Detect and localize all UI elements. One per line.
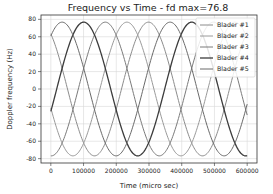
y-tick-label: 60 [28, 33, 36, 40]
y-tick-label: 20 [28, 68, 36, 75]
y-tick-label: -40 [26, 120, 36, 127]
x-tick-label: 300000 [138, 167, 161, 174]
x-axis-label: Time (micro sec) [119, 182, 179, 190]
y-axis-label: Doppler frequency (Hz) [6, 48, 14, 130]
legend-label: Blader #2 [217, 32, 249, 39]
y-tick-label: -80 [26, 155, 36, 162]
x-tick-label: 600000 [236, 167, 259, 174]
legend-label: Blader #3 [217, 43, 249, 50]
legend-label: Blader #4 [217, 54, 249, 61]
x-tick-label: 500000 [203, 167, 226, 174]
y-tick-label: -60 [26, 137, 36, 144]
chart-title: Frequency vs Time - fd max=76.8 [68, 2, 229, 13]
chart: Frequency vs Time - fd max=76.8 Time (mi… [0, 0, 273, 194]
x-tick-label: 100000 [72, 167, 95, 174]
x-tick-label: 0 [49, 167, 53, 174]
legend: Blader #1Blader #2Blader #3Blader #4Blad… [196, 18, 255, 77]
y-tick-label: 40 [28, 50, 36, 57]
x-tick-label: 200000 [105, 167, 128, 174]
y-tick-label: 80 [28, 15, 36, 22]
legend-label: Blader #5 [217, 65, 249, 72]
y-tick-label: 0 [32, 85, 36, 92]
x-tick-label: 400000 [170, 167, 193, 174]
legend-label: Blader #1 [217, 21, 249, 28]
y-tick-label: -20 [26, 102, 36, 109]
